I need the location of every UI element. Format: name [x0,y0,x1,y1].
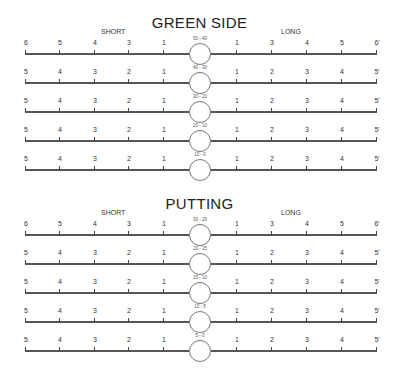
tick-mark [306,318,307,322]
tick-mark [25,318,26,322]
short-distance-label: 3 [93,155,97,162]
long-distance-label: 1 [235,336,239,343]
tick-mark [25,108,26,112]
short-distance-label: 4 [58,126,62,133]
short-distance-label: 2 [127,68,131,75]
short-distance-label: 2 [127,126,131,133]
long-distance-label: 2 [270,155,274,162]
long-distance-label: 4 [305,220,309,227]
short-distance-label: 5 [24,155,28,162]
long-distance-label: 1 [235,278,239,285]
long-distance-label: 4 [305,39,309,46]
long-distance-label: 5' [374,68,379,75]
short-distance-label: 4 [93,39,97,46]
long-label: LONG [281,209,301,216]
short-distance-label: 3 [127,220,131,227]
tick-mark [163,231,164,235]
tick-mark [271,50,272,54]
long-distance-label: 3 [270,220,274,227]
long-distance-label: 4 [340,278,344,285]
tick-mark [306,50,307,54]
tick-mark [94,166,95,170]
short-distance-label: 1 [162,220,166,227]
tick-mark [25,137,26,141]
tick-mark [236,231,237,235]
long-distance-label: 2 [270,278,274,285]
distance-range-label: 15 - 10 [193,275,207,280]
tick-mark [306,260,307,264]
tick-mark [236,347,237,351]
tick-mark [376,289,377,293]
tick-mark [306,137,307,141]
target-circle[interactable] [189,282,211,304]
tick-mark [376,79,377,83]
tick-mark [341,166,342,170]
long-distance-label: 1 [235,155,239,162]
target-circle[interactable] [189,311,211,333]
short-distance-label: 3 [93,307,97,314]
long-distance-label: 3 [305,155,309,162]
short-distance-label: 1 [162,336,166,343]
tick-mark [128,79,129,83]
short-label: SHORT [101,28,125,35]
long-distance-label: 1 [235,307,239,314]
tick-mark [128,289,129,293]
long-distance-label: 5' [374,97,379,104]
short-distance-label: 1 [162,97,166,104]
short-distance-label: 1 [162,307,166,314]
tick-mark [236,260,237,264]
short-distance-label: 3 [93,336,97,343]
tick-mark [59,347,60,351]
long-distance-label: 3 [305,126,309,133]
distance-range-label: 10 - 0 [194,152,206,157]
tick-mark [25,79,26,83]
tick-mark [341,260,342,264]
short-distance-label: 1 [162,68,166,75]
short-distance-label: 5 [58,39,62,46]
tick-mark [341,50,342,54]
target-circle[interactable] [189,224,211,246]
short-distance-label: 4 [58,307,62,314]
tick-mark [163,166,164,170]
target-circle[interactable] [189,253,211,275]
tick-mark [376,318,377,322]
long-distance-label: 4 [340,126,344,133]
short-line [25,82,189,84]
short-distance-label: 4 [58,336,62,343]
distance-range-label: 20 - 10 [193,123,207,128]
target-circle[interactable] [189,72,211,94]
tick-mark [25,231,26,235]
long-distance-label: 2 [270,126,274,133]
long-distance-label: 5' [374,249,379,256]
target-circle[interactable] [189,159,211,181]
tick-mark [59,108,60,112]
tick-mark [376,231,377,235]
tick-mark [236,318,237,322]
tick-mark [163,347,164,351]
long-distance-label: 3 [305,249,309,256]
tick-mark [128,166,129,170]
short-distance-label: 1 [162,155,166,162]
long-distance-label: 3 [305,68,309,75]
tick-mark [94,137,95,141]
long-distance-label: 5' [374,307,379,314]
tick-mark [236,166,237,170]
target-circle[interactable] [189,130,211,152]
short-distance-label: 5 [24,278,28,285]
short-distance-label: 1 [162,249,166,256]
long-distance-label: 1 [235,126,239,133]
long-distance-label: 2 [270,97,274,104]
long-distance-label: 4 [340,155,344,162]
distance-range-label: 10 - 5 [194,304,206,309]
short-distance-label: 3 [127,39,131,46]
short-distance-label: 1 [162,278,166,285]
tick-mark [94,318,95,322]
short-distance-label: 4 [58,249,62,256]
short-distance-label: 5 [58,220,62,227]
distance-range-label: 20 - 15 [193,246,207,251]
tick-mark [341,318,342,322]
short-line [25,140,189,142]
target-circle[interactable] [189,101,211,123]
target-circle[interactable] [189,340,211,362]
target-circle[interactable] [189,43,211,65]
